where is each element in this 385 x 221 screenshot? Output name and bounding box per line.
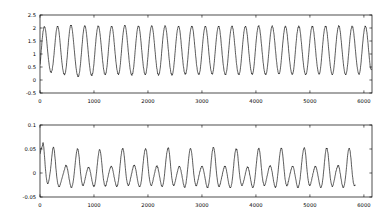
x-tick-label: 5000 <box>303 98 316 104</box>
line-chart-bottom: 0100020003000400050006000-0.0500.050.1 <box>0 110 385 221</box>
y-tick-label: 0 <box>33 77 36 83</box>
y-tick-label: 0.1 <box>28 122 36 128</box>
chart-panel-top: 0100020003000400050006000-0.500.511.522.… <box>0 0 385 110</box>
x-tick-label: 5000 <box>303 202 316 208</box>
y-tick-label: 2.5 <box>28 12 36 18</box>
y-tick-label: 0.5 <box>28 64 36 70</box>
x-tick-label: 2000 <box>141 202 154 208</box>
y-tick-label: 2 <box>33 25 36 31</box>
y-tick-label: 0.05 <box>24 146 36 152</box>
figure-container: 0100020003000400050006000-0.500.511.522.… <box>0 0 385 221</box>
x-tick-label: 1000 <box>87 98 100 104</box>
y-tick-label: -0.5 <box>26 90 36 96</box>
x-tick-label: 6000 <box>357 98 370 104</box>
series-line <box>40 143 355 188</box>
line-chart-top: 0100020003000400050006000-0.500.511.522.… <box>0 0 385 110</box>
x-tick-label: 4000 <box>249 202 262 208</box>
y-tick-label: 0 <box>33 170 36 176</box>
x-tick-label: 3000 <box>195 98 208 104</box>
y-tick-label: 1.5 <box>28 38 36 44</box>
y-tick-label: -0.05 <box>23 194 36 200</box>
series-line <box>40 25 371 77</box>
x-tick-label: 2000 <box>141 98 154 104</box>
chart-panel-bottom: 0100020003000400050006000-0.0500.050.1 <box>0 110 385 221</box>
x-tick-label: 3000 <box>195 202 208 208</box>
x-tick-label: 6000 <box>357 202 370 208</box>
x-tick-label: 0 <box>38 98 41 104</box>
x-tick-label: 1000 <box>87 202 100 208</box>
y-tick-label: 1 <box>33 51 36 57</box>
x-tick-label: 0 <box>38 202 41 208</box>
x-tick-label: 4000 <box>249 98 262 104</box>
